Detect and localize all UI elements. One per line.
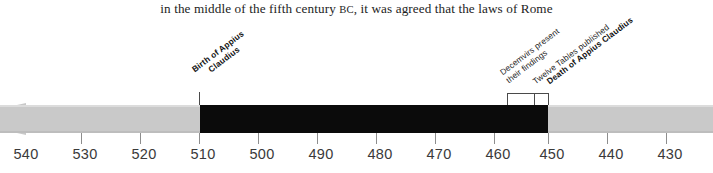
event-label-line1: Death of Appius Claudius: [545, 15, 635, 86]
timeline-band-lifetime-highlight: [200, 105, 548, 133]
axis-tick: [607, 133, 608, 144]
axis-tick-label: 450: [522, 146, 582, 162]
axis-tick-label: 460: [468, 146, 528, 162]
axis-tick-label: 480: [350, 146, 410, 162]
event-label-death-of-appius-claudius: Death of Appius Claudius: [545, 15, 635, 86]
timeline-band-context-before: [0, 105, 200, 133]
timeline-figure: 540 530 520 510 500 490 480 470 460 450 …: [0, 0, 713, 173]
event-leader-twelve-tables: [534, 93, 535, 105]
event-leader-death: [548, 93, 549, 105]
axis-tick-label: 530: [55, 146, 115, 162]
axis-tick: [666, 133, 667, 144]
axis-tick: [317, 133, 318, 144]
axis-tick: [435, 133, 436, 144]
axis-tick-label: 490: [291, 146, 351, 162]
axis-tick: [199, 133, 200, 144]
axis-tick-label: 470: [409, 146, 469, 162]
axis-tick-label: 500: [232, 146, 292, 162]
axis-tick-label: 520: [114, 146, 174, 162]
axis-tick: [140, 133, 141, 144]
axis-tick: [376, 133, 377, 144]
axis-tick-label: 540: [0, 146, 56, 162]
timeline-band-context-after: [548, 105, 713, 133]
event-label-birth-of-appius-claudius: Birth of Appius Claudius: [190, 29, 252, 82]
event-leader-decemvirs: [507, 93, 508, 105]
axis-tick: [81, 133, 82, 144]
axis-tick-label: 510: [173, 146, 233, 162]
axis-tick: [258, 133, 259, 144]
axis-tick: [548, 133, 549, 144]
axis-tick-label: 430: [640, 146, 700, 162]
event-leader-birth: [199, 92, 200, 105]
event-leader-bracket: [507, 93, 549, 94]
axis-tick-label: 440: [581, 146, 641, 162]
axis-tick: [494, 133, 495, 144]
